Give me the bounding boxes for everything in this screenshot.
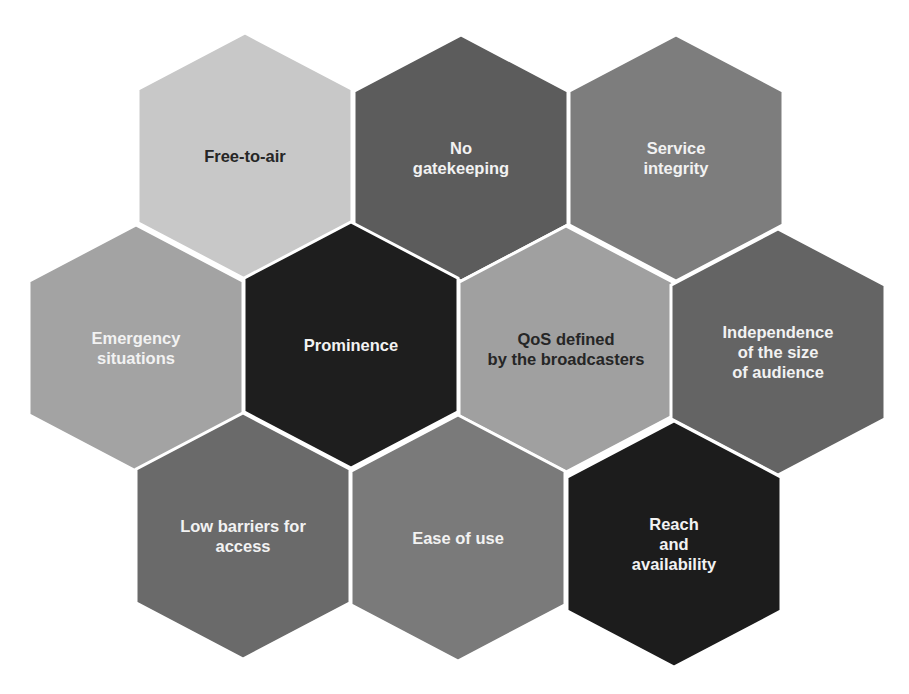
- hex-label-line: access: [148, 536, 338, 556]
- hex-label-line: of the size: [683, 342, 873, 362]
- hex-label-emergency-situations: Emergencysituations: [41, 328, 231, 368]
- hex-label-independence: Independenceof the sizeof audience: [683, 322, 873, 382]
- hex-label-line: situations: [41, 348, 231, 368]
- hex-label-line: by the broadcasters: [471, 349, 661, 369]
- hex-label-line: Independence: [683, 322, 873, 342]
- hex-label-free-to-air: Free-to-air: [150, 146, 340, 166]
- hex-label-line: Reach: [579, 514, 769, 534]
- hex-label-line: Free-to-air: [150, 146, 340, 166]
- hex-label-ease-of-use: Ease of use: [363, 528, 553, 548]
- hex-label-line: integrity: [581, 158, 771, 178]
- hex-label-line: QoS defined: [471, 329, 661, 349]
- hex-label-line: gatekeeping: [366, 158, 556, 178]
- hex-label-line: No: [366, 138, 556, 158]
- hex-label-line: Prominence: [256, 335, 446, 355]
- hex-label-line: Emergency: [41, 328, 231, 348]
- hex-label-line: Low barriers for: [148, 516, 338, 536]
- hex-label-line: and: [579, 534, 769, 554]
- hex-label-line: Service: [581, 138, 771, 158]
- hex-label-low-barriers: Low barriers foraccess: [148, 516, 338, 556]
- hex-label-prominence: Prominence: [256, 335, 446, 355]
- hex-label-service-integrity: Serviceintegrity: [581, 138, 771, 178]
- honeycomb-diagram: Free-to-airNogatekeepingServiceintegrity…: [0, 0, 909, 694]
- hex-label-line: Ease of use: [363, 528, 553, 548]
- hex-label-line: of audience: [683, 362, 873, 382]
- hex-label-reach-availability: Reachandavailability: [579, 514, 769, 574]
- hex-label-qos-defined: QoS definedby the broadcasters: [471, 329, 661, 369]
- hex-label-line: availability: [579, 554, 769, 574]
- hex-label-no-gatekeeping: Nogatekeeping: [366, 138, 556, 178]
